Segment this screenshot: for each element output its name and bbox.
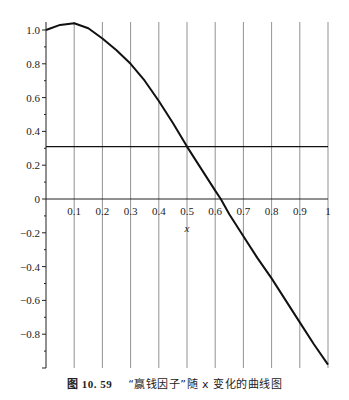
x-tick-label: 0.4 — [152, 205, 166, 217]
x-tick-label: 0.1 — [67, 205, 81, 217]
y-tick-label: 0 — [35, 193, 41, 205]
x-tick-label: 0.5 — [180, 205, 194, 217]
x-tick-label: 0.7 — [237, 205, 251, 217]
x-tick-label: 0.8 — [265, 205, 279, 217]
y-tick-label: 0.6 — [26, 92, 40, 104]
y-tick-label: −0.4 — [20, 261, 40, 273]
y-tick-label: 0.4 — [26, 125, 40, 137]
chart: 1.00.80.60.40.20−0.2−0.4−0.6−0.80.10.20.… — [0, 0, 349, 372]
x-tick-label: 0.3 — [124, 205, 138, 217]
y-tick-label: 1.0 — [26, 24, 40, 36]
y-tick-label: 0.8 — [26, 58, 40, 70]
x-tick-label: 1 — [325, 205, 331, 217]
figure-title: “赢钱因子”随 x 变化的曲线图 — [128, 378, 282, 391]
y-tick-label: 0.2 — [26, 159, 40, 171]
x-axis-label: x — [184, 222, 190, 234]
x-tick-label: 0.2 — [96, 205, 110, 217]
x-tick-label: 0.9 — [293, 205, 307, 217]
y-tick-label: −0.2 — [20, 227, 40, 239]
x-tick-label: 0.6 — [208, 205, 222, 217]
y-tick-label: −0.6 — [20, 294, 40, 306]
figure-caption: 图 10. 59 “赢钱因子”随 x 变化的曲线图 — [0, 375, 349, 391]
figure-number: 图 10. 59 — [67, 378, 112, 390]
y-tick-label: −0.8 — [20, 328, 40, 340]
